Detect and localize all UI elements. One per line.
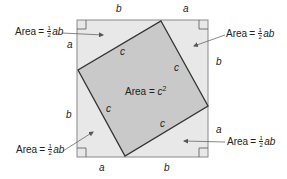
label-left-a: a xyxy=(67,40,73,50)
label-top-a: a xyxy=(183,4,189,14)
triangle-area-label-top-left: Area = 1 2 ab xyxy=(15,25,63,38)
area-variables: ab xyxy=(263,28,274,40)
fraction-one-half: 1 2 xyxy=(47,25,51,38)
area-word: Area xyxy=(15,26,36,38)
label-left-b: b xyxy=(66,110,72,120)
area-word: Area xyxy=(16,144,37,156)
label-top-b: b xyxy=(116,4,122,14)
pythagorean-diagram: b a a b b a a b c c c c Area = c2 Area =… xyxy=(0,0,287,179)
fraction-denominator: 2 xyxy=(258,34,261,40)
fraction-numerator: 1 xyxy=(48,143,52,150)
equals-sign: = xyxy=(149,86,155,97)
triangle-area-label-bottom-left: Area = 1 2 ab xyxy=(16,143,64,156)
equals-sign: = xyxy=(38,26,44,38)
fraction-numerator: 1 xyxy=(47,25,51,32)
area-word: Area xyxy=(125,86,146,97)
fraction-denominator: 2 xyxy=(259,142,262,148)
label-hypotenuse-c-top: c xyxy=(120,47,125,57)
fraction-one-half: 1 2 xyxy=(259,135,263,148)
fraction-denominator: 2 xyxy=(48,150,51,156)
label-bottom-a: a xyxy=(99,163,105,173)
equals-sign: = xyxy=(39,144,45,156)
label-hypotenuse-c-right: c xyxy=(174,63,179,73)
area-variables: ab xyxy=(53,144,64,156)
label-right-b: b xyxy=(216,57,222,67)
label-hypotenuse-c-bottom: c xyxy=(160,119,165,129)
fraction-one-half: 1 2 xyxy=(48,143,52,156)
label-bottom-b: b xyxy=(164,163,170,173)
area-word: Area xyxy=(226,28,247,40)
inner-square-area-label: Area = c2 xyxy=(125,86,166,98)
fraction-numerator: 1 xyxy=(258,27,262,34)
area-exponent: 2 xyxy=(163,85,167,92)
fraction-denominator: 2 xyxy=(47,32,50,38)
triangle-area-label-top-right: Area = 1 2 ab xyxy=(226,27,274,40)
equals-sign: = xyxy=(250,136,256,148)
triangle-area-label-bottom-right: Area = 1 2 ab xyxy=(227,135,275,148)
fraction-numerator: 1 xyxy=(259,135,263,142)
area-word: Area xyxy=(227,136,248,148)
fraction-one-half: 1 2 xyxy=(258,27,262,40)
area-variables: ab xyxy=(264,136,275,148)
equals-sign: = xyxy=(249,28,255,40)
label-hypotenuse-c-left: c xyxy=(106,104,111,114)
area-variables: ab xyxy=(52,26,63,38)
label-right-a: a xyxy=(216,125,222,135)
